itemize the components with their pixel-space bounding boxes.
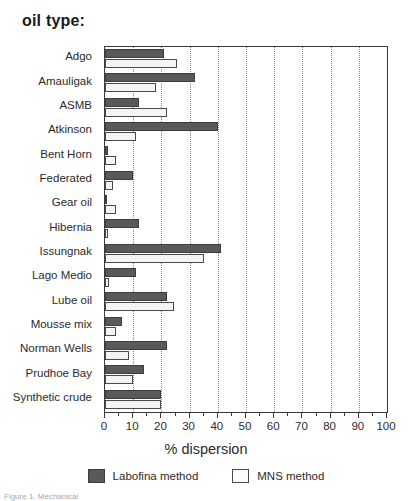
figure-caption: Figure 1. Mechanical	[4, 492, 78, 501]
bar	[105, 400, 161, 409]
legend-entry: Labofina method	[88, 469, 199, 483]
tick-major	[245, 412, 246, 418]
bar	[105, 132, 136, 141]
x-axis-tick-label: 20	[154, 420, 167, 432]
tick-minor	[146, 412, 147, 416]
tick-major	[189, 412, 190, 418]
page-title: oil type:	[22, 12, 85, 30]
legend-label: Labofina method	[113, 470, 199, 482]
bar-group	[105, 71, 387, 95]
bar	[105, 83, 156, 92]
x-axis-tick-label: 0	[101, 420, 107, 432]
x-axis-tick-label: 60	[267, 420, 280, 432]
bar-group	[105, 290, 387, 314]
bar	[105, 351, 129, 360]
bar	[105, 219, 139, 228]
bar-group	[105, 266, 387, 290]
plot-area	[104, 46, 388, 413]
y-axis-label: Adgo	[65, 50, 92, 62]
bar	[105, 375, 133, 384]
bar-group	[105, 339, 387, 363]
legend-swatch	[88, 469, 105, 483]
y-axis-label: Atkinson	[48, 123, 92, 135]
bar	[105, 278, 109, 287]
x-axis-tick-label: 80	[323, 420, 336, 432]
x-axis-tick-labels: 0102030405060708090100	[104, 420, 387, 436]
tick-minor	[344, 412, 345, 416]
bar	[105, 365, 144, 374]
tick-major	[301, 412, 302, 418]
tick-minor	[231, 412, 232, 416]
y-axis-label: Prudhoe Bay	[26, 367, 93, 379]
x-axis-ticks	[104, 412, 387, 419]
legend-label: MNS method	[257, 470, 324, 482]
tick-minor	[287, 412, 288, 416]
y-axis-label: Lube oil	[52, 294, 92, 306]
bar-group	[105, 47, 387, 71]
tick-minor	[118, 412, 119, 416]
tick-major	[358, 412, 359, 418]
bar-group	[105, 193, 387, 217]
bar	[105, 292, 167, 301]
y-axis-label: Issungnak	[40, 245, 92, 257]
bar-group	[105, 144, 387, 168]
legend-swatch	[232, 469, 249, 483]
x-axis-tick-label: 100	[376, 420, 395, 432]
x-axis-title: % dispersion	[0, 441, 412, 457]
bar	[105, 254, 204, 263]
tick-major	[330, 412, 331, 418]
bar	[105, 268, 136, 277]
bar	[105, 49, 164, 58]
bar	[105, 390, 161, 399]
y-axis-label: Amauligak	[38, 75, 92, 87]
tick-major	[132, 412, 133, 418]
x-axis-tick-label: 90	[351, 420, 364, 432]
bar	[105, 341, 167, 350]
tick-major	[217, 412, 218, 418]
y-axis-label: ASMB	[59, 99, 92, 111]
bar-group	[105, 242, 387, 266]
x-axis-tick-label: 70	[295, 420, 308, 432]
bar-group	[105, 217, 387, 241]
tick-major	[160, 412, 161, 418]
y-axis-label: Lago Medio	[32, 269, 92, 281]
y-axis-label: Mousse mix	[31, 318, 92, 330]
legend-entry: MNS method	[232, 469, 324, 483]
bar	[105, 302, 174, 311]
x-axis-tick-label: 10	[126, 420, 139, 432]
bar	[105, 98, 139, 107]
bar	[105, 171, 133, 180]
bar-group	[105, 363, 387, 387]
bar	[105, 146, 108, 155]
bar	[105, 156, 116, 165]
bar	[105, 244, 221, 253]
y-axis-labels: AdgoAmauligakASMBAtkinsonBent HornFedera…	[0, 46, 98, 411]
bar	[105, 195, 107, 204]
bar	[105, 73, 195, 82]
bar	[105, 229, 108, 238]
bar	[105, 317, 122, 326]
tick-major	[273, 412, 274, 418]
bar	[105, 205, 116, 214]
tick-minor	[372, 412, 373, 416]
bar	[105, 122, 218, 131]
bar	[105, 108, 167, 117]
x-axis-tick-label: 30	[182, 420, 195, 432]
bar-group	[105, 96, 387, 120]
legend: Labofina methodMNS method	[0, 469, 412, 483]
x-axis-tick-label: 40	[210, 420, 223, 432]
bar-group	[105, 315, 387, 339]
bar	[105, 327, 116, 336]
tick-minor	[203, 412, 204, 416]
bar-group	[105, 388, 387, 412]
y-axis-label: Norman Wells	[20, 342, 92, 354]
tick-minor	[175, 412, 176, 416]
tick-major	[386, 412, 387, 418]
y-axis-label: Bent Horn	[40, 148, 92, 160]
bar	[105, 181, 113, 190]
bar-group	[105, 120, 387, 144]
y-axis-label: Gear oil	[52, 196, 92, 208]
y-axis-label: Synthetic crude	[13, 391, 92, 403]
tick-major	[104, 412, 105, 418]
tick-minor	[316, 412, 317, 416]
